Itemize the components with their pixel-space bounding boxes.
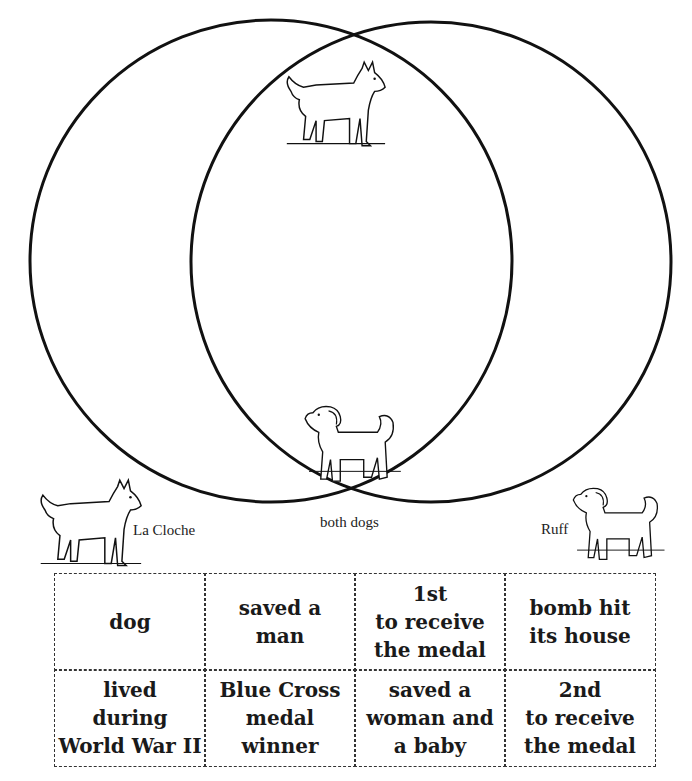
card-1st-to-receive-medal[interactable]: 1st to receive the medal <box>354 573 506 671</box>
card-lived-during-ww2[interactable]: lived during World War II <box>54 669 206 767</box>
card-saved-woman-and-baby[interactable]: saved a woman and a baby <box>354 669 506 767</box>
venn-circle-ruff[interactable] <box>191 22 671 502</box>
label-ruff: Ruff <box>541 521 568 538</box>
label-both-dogs: both dogs <box>320 514 379 531</box>
card-dog[interactable]: dog <box>54 573 206 671</box>
husky-dog-icon <box>36 478 148 572</box>
card-2nd-to-receive-medal[interactable]: 2nd to receive the medal <box>504 669 656 767</box>
venn-circle-la-cloche[interactable] <box>30 20 512 502</box>
puppy-dog-icon <box>566 485 670 565</box>
card-bomb-hit-its-house[interactable]: bomb hit its house <box>504 573 656 671</box>
husky-dog-icon <box>282 60 392 152</box>
puppy-dog-icon <box>298 403 406 487</box>
card-blue-cross-medal-winner[interactable]: Blue Cross medal winner <box>204 669 356 767</box>
cut-out-cards-grid: dog saved a man 1st to receive the medal… <box>55 574 655 766</box>
label-la-cloche: La Cloche <box>133 522 195 539</box>
card-saved-a-man[interactable]: saved a man <box>204 573 356 671</box>
